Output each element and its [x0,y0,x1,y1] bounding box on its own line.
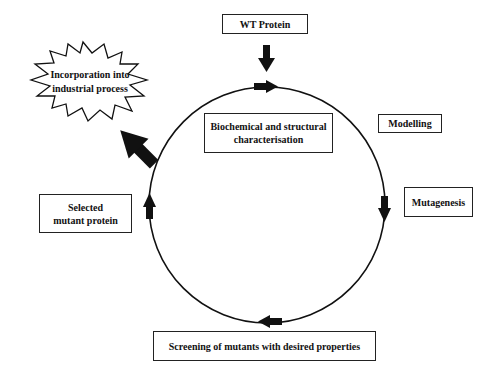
mutagenesis-box: Mutagenesis [404,187,473,217]
industrial-process-line2: industrial process [40,82,140,96]
industrial-process-line1: Incorporation into [40,68,140,82]
mutagenesis-label: Mutagenesis [412,196,465,209]
characterisation-label-line1: Biochemical and structural [210,120,326,133]
cycle-arrow-left-icon [143,193,156,219]
selected-mutant-box: Selected mutant protein [39,194,132,233]
industrial-process-label: Incorporation into industrial process [40,68,140,96]
down-arrow-icon [258,45,275,72]
modelling-box: Modelling [378,114,442,133]
characterisation-label-line2: characterisation [234,133,303,146]
cycle-arrow-top-icon [254,80,278,93]
selected-mutant-label-line1: Selected [68,201,103,214]
modelling-label: Modelling [388,117,431,130]
characterisation-box: Biochemical and structural characterisat… [204,113,333,153]
wt-protein-label: WT Protein [240,18,290,31]
screening-label: Screening of mutants with desired proper… [169,340,360,353]
screening-box: Screening of mutants with desired proper… [153,331,376,361]
cycle-arrow-bottom-icon [258,315,282,328]
selected-mutant-label-line2: mutant protein [53,214,118,227]
wt-protein-box: WT Protein [222,14,308,34]
cycle-arrow-right-icon [378,196,391,222]
